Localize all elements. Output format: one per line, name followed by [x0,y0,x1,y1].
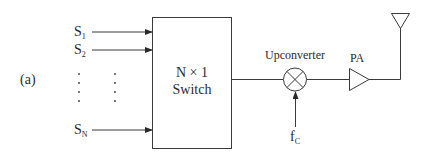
antenna-feed-line [369,28,401,80]
pa-label: PA [350,51,365,65]
carrier-label: fC [290,129,300,146]
input-s2: S2 [74,42,152,59]
input-label: SN [74,122,88,139]
dot [114,73,116,75]
block-diagram: (a) S1 S2 SN N × 1 Switch Upconverter [0,0,427,164]
dot [114,100,116,102]
switch-block: N × 1 Switch [153,18,232,149]
antenna-icon [392,14,410,29]
input-label: S1 [74,24,86,41]
power-amplifier: PA [350,51,370,91]
amplifier-triangle-icon [350,69,370,91]
upconverter-mixer: Upconverter [265,48,325,91]
input-sn: SN [74,122,152,139]
dot [78,82,80,84]
dot [78,100,80,102]
carrier-input: fC [290,92,300,146]
figure-label: (a) [20,72,36,88]
switch-label-line1: N × 1 [176,65,208,80]
dot [114,91,116,93]
dot [78,73,80,75]
input-label: S2 [74,42,86,59]
upconverter-label: Upconverter [265,48,325,62]
dot [114,82,116,84]
dot [78,91,80,93]
ellipsis-dots [78,73,116,102]
input-s1: S1 [74,24,152,41]
switch-label-line2: Switch [173,82,212,97]
